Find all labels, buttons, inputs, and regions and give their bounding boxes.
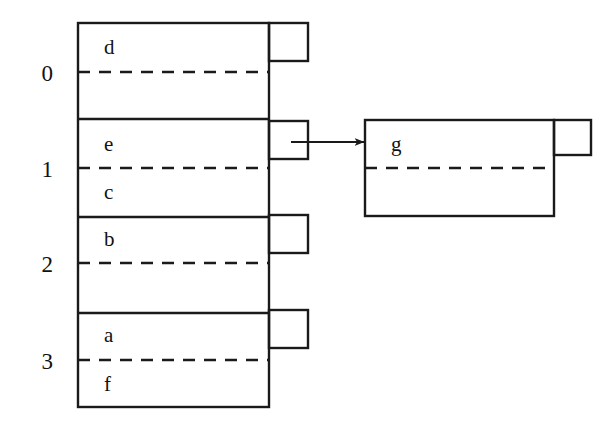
bucket-1-entry-above: e	[104, 134, 113, 155]
bucket-2-entry-above: b	[104, 229, 115, 250]
bucket-2-pointer-tab	[269, 215, 308, 253]
bucket-0-pointer-tab	[269, 23, 308, 61]
row-index-0: 0	[29, 62, 53, 85]
bucket-0-entry-above: d	[104, 37, 115, 58]
main-table-outline	[78, 23, 269, 407]
bucket-1-pointer-tab	[269, 121, 308, 159]
row-index-2: 2	[29, 253, 53, 276]
bucket-3-pointer-tab	[269, 310, 308, 348]
row-index-1: 1	[29, 158, 53, 181]
bucket-3-entry-above: a	[104, 325, 113, 346]
diagram-vector-layer	[0, 0, 614, 429]
bucket-3-entry-below: f	[104, 374, 111, 395]
bucket-1-entry-below: c	[104, 182, 113, 203]
overflow-bucket-entry-above: g	[391, 134, 402, 155]
overflow-bucket-pointer-tab	[554, 120, 591, 155]
diagram-canvas: 0 1 2 3 d e c b a f g	[0, 0, 614, 429]
row-index-3: 3	[29, 350, 53, 373]
